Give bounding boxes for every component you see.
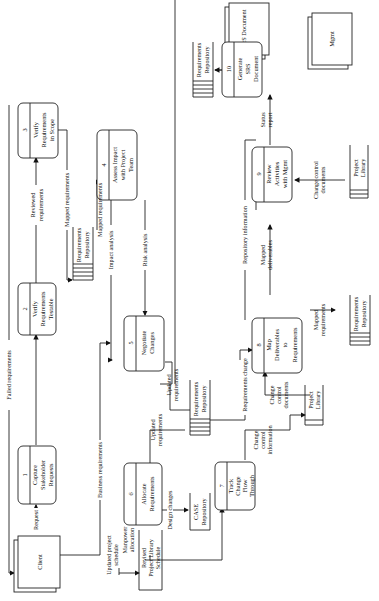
svg-text:Requirements: Requirements	[192, 381, 199, 416]
svg-text:control: control	[275, 386, 282, 404]
flow-updated-requirements-2: Updated	[149, 419, 156, 441]
mgmt-label: Mgmt	[328, 31, 335, 47]
svg-text:Project Library: Project Library	[147, 538, 154, 577]
store-project-library-1: Project Library	[305, 385, 323, 425]
svg-text:Requirements: Requirements	[291, 327, 298, 363]
svg-text:Capture: Capture	[31, 465, 38, 485]
svg-text:Requirements: Requirements	[352, 296, 359, 331]
svg-text:report: report	[266, 112, 273, 127]
svg-text:Repository: Repository	[360, 300, 367, 328]
flow-change-control-information: Change	[252, 430, 259, 449]
store-requirements-repository-3: Requirements Repository	[190, 380, 210, 435]
svg-text:requirements: requirements	[172, 368, 179, 401]
store-project-library-2: Project Library	[350, 145, 368, 198]
svg-text:8: 8	[255, 343, 262, 346]
svg-text:Testable: Testable	[47, 298, 54, 319]
svg-text:Library: Library	[359, 158, 366, 177]
flow-change-control-documents-1: Change	[268, 385, 275, 404]
svg-text:Repository: Repository	[203, 46, 210, 74]
svg-text:Repository: Repository	[83, 231, 90, 259]
svg-text:Requirements: Requirements	[40, 112, 47, 148]
flow-repository-information: Repository information	[241, 206, 248, 264]
svg-text:Assess Impact: Assess Impact	[111, 147, 118, 183]
svg-text:Verify: Verify	[32, 121, 39, 138]
flow-business-requirements: Business requirements	[96, 441, 103, 497]
process-9: 9 Review Activities with Mgmt	[252, 147, 292, 202]
svg-text:information: information	[266, 425, 273, 454]
svg-text:Negotiate: Negotiate	[140, 331, 147, 356]
svg-text:with Mgmt: with Mgmt	[281, 160, 288, 188]
svg-text:Project: Project	[307, 391, 314, 409]
svg-text:Requirements: Requirements	[195, 42, 202, 77]
flow-mapped-deliverables: Mapped	[259, 244, 266, 265]
svg-text:Team: Team	[127, 158, 134, 172]
svg-text:10: 10	[225, 66, 232, 72]
store-requirements-repository-4: Requirements Repository	[350, 295, 370, 345]
flow-request: Request	[32, 510, 39, 530]
svg-text:Through: Through	[248, 474, 255, 497]
svg-text:Repository: Repository	[200, 385, 207, 413]
svg-text:Changes: Changes	[148, 332, 155, 354]
store-case-repository: CASE Repository	[190, 493, 210, 530]
svg-text:Requirements: Requirements	[148, 476, 155, 512]
svg-text:in Scope: in Scope	[48, 119, 55, 141]
flow-manpower-allocation: Manpower	[121, 527, 128, 554]
svg-text:Deliverables: Deliverables	[273, 329, 280, 361]
svg-text:Activities: Activities	[273, 161, 280, 186]
flow-impact-analysis: Impact analysis	[107, 230, 114, 269]
flow-mapped-requirements-2: Mapped requirements	[96, 182, 103, 237]
store-revised-schedule: Revised Project Library Schedule	[139, 530, 162, 590]
process-8: 8 Map Deliverables to Requirements	[252, 318, 302, 373]
svg-text:1: 1	[21, 473, 28, 476]
svg-text:Generate: Generate	[236, 57, 243, 80]
svg-text:5: 5	[127, 341, 134, 344]
svg-text:with Project: with Project	[119, 149, 126, 180]
svg-text:Stakeholder: Stakeholder	[39, 459, 46, 490]
svg-text:documents: documents	[282, 381, 289, 408]
svg-text:to: to	[281, 343, 288, 348]
flow-change-control-documents-2: Change control	[312, 161, 319, 199]
svg-text:Track: Track	[227, 478, 234, 493]
flow-status-report: Status	[259, 112, 266, 128]
process-4: 4 Assess Impact with Project Team	[97, 130, 137, 200]
flow-failed-requirements: Failed requirements	[5, 350, 12, 400]
svg-text:Requirements: Requirements	[39, 291, 46, 327]
svg-text:Library: Library	[314, 390, 321, 409]
process-5: 5 Negotiate Changes	[124, 316, 164, 371]
entity-client: Client	[14, 536, 60, 592]
process-1: 1 Capture Stakeholder Requests	[18, 446, 56, 504]
svg-text:Map: Map	[265, 339, 272, 351]
svg-text:7: 7	[218, 484, 225, 487]
svg-text:Revised: Revised	[140, 547, 147, 568]
flow-updated-project-schedule: Updated project	[105, 535, 112, 575]
svg-text:documents: documents	[319, 166, 326, 193]
client-label: Client	[36, 554, 43, 570]
svg-text:control: control	[259, 431, 266, 449]
svg-text:6: 6	[127, 492, 134, 495]
svg-text:2: 2	[21, 307, 28, 310]
store-requirements-repository-2: Requirements Repository	[193, 42, 213, 97]
svg-text:Flow: Flow	[241, 479, 248, 492]
flow-risk-analysis: Risk analysis	[141, 233, 148, 266]
flow-reviewed-requirements: Reviewed	[29, 192, 36, 218]
process-10: 10 Generate SRS Document	[222, 42, 262, 97]
process-2: 2 Verify Requirements Testable	[18, 283, 56, 335]
svg-text:Repository: Repository	[200, 498, 207, 526]
data-flow-diagram: Client SRS Document Mgmt 1 Capture Stake…	[0, 0, 379, 601]
svg-text:CASE: CASE	[192, 504, 199, 520]
flow-lines	[9, 0, 345, 575]
svg-text:allocation: allocation	[128, 528, 135, 552]
svg-text:9: 9	[255, 172, 262, 175]
svg-text:Document: Document	[252, 56, 259, 82]
svg-text:Requests: Requests	[47, 463, 54, 486]
svg-text:deliverables: deliverables	[266, 239, 273, 269]
process-7: 7 Track Change Flow Through	[215, 462, 255, 510]
store-requirements-repository-1: Requirements Repository	[73, 227, 93, 280]
svg-text:Review: Review	[265, 164, 272, 184]
svg-text:requirements: requirements	[319, 303, 326, 336]
svg-text:Requirements: Requirements	[75, 227, 82, 262]
svg-text:Project: Project	[352, 159, 359, 177]
svg-text:requirements: requirements	[156, 413, 163, 446]
process-3: 3 Verify Requirements in Scope	[18, 103, 58, 158]
svg-text:3: 3	[21, 128, 28, 131]
